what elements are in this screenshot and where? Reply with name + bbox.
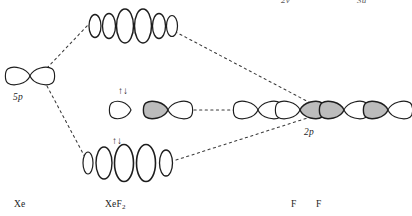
- xef2-molecule-label: XeF2: [105, 199, 126, 211]
- antibonding-lobe-2: [103, 14, 116, 39]
- fluorine-1-label: F: [291, 199, 296, 209]
- electron-pair-nonbonding: ↑↓: [118, 85, 128, 96]
- electron-pair-bonding: ↑↓: [112, 135, 122, 146]
- antibonding-lobe-3: [117, 9, 134, 43]
- antibonding-lobe-6: [167, 16, 178, 37]
- f-2p-label: 2p: [304, 127, 314, 137]
- nonbonding-orbital-row: [109, 101, 192, 118]
- xef2-formula-subscript: 2: [122, 203, 126, 211]
- correlation-lines: [47, 25, 320, 160]
- bonding-lobe-1: [83, 152, 93, 174]
- orbital-diagram-canvas: [0, 0, 412, 216]
- bonding-lobe-3: [115, 145, 134, 182]
- xef2-formula-text: XeF: [105, 199, 122, 209]
- antibonding-lobe-5: [153, 14, 166, 39]
- xe-5p-label: 5p: [13, 92, 23, 102]
- bonding-lobe-5: [160, 150, 173, 176]
- nonbonding-lobe-partial: [109, 101, 131, 118]
- bonding-orbital-row: [83, 145, 173, 182]
- line-xe-to-bonding: [47, 86, 86, 159]
- antibonding-lobe-4: [135, 9, 152, 43]
- symmetry-label-left: 2v: [281, 0, 290, 5]
- line-bonding-to-f: [176, 114, 320, 160]
- fluorine-2-label: F: [316, 199, 321, 209]
- bonding-lobe-2: [96, 147, 112, 179]
- antibonding-orbital-row: [89, 9, 178, 43]
- antibonding-lobe-1: [89, 15, 101, 38]
- symmetry-label-right: 3u: [357, 0, 366, 5]
- xe-atom-label: Xe: [14, 199, 25, 209]
- xe-5p-orbital: [5, 67, 54, 84]
- fluorine-2p-orbital-row: [233, 101, 412, 118]
- bonding-lobe-4: [137, 145, 156, 182]
- xef2-molecular-orbital-diagram: ↑↓ ↑↓ 5p 2p Xe XeF2 F F 2v 3u: [0, 0, 412, 216]
- line-xe-to-antibonding: [47, 25, 88, 68]
- line-antibonding-to-f: [170, 29, 320, 108]
